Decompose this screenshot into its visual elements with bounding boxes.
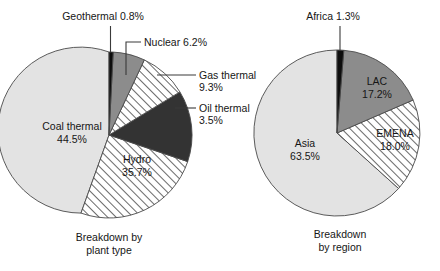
label-emena-line2: 18.0% <box>380 140 410 152</box>
label-emena-line1: EMENA <box>376 127 413 139</box>
label-africa: Africa 1.3% <box>306 10 360 22</box>
label-lac-line2: 17.2% <box>362 88 392 100</box>
label-gas-thermal-line1: Gas thermal <box>199 69 256 81</box>
label-oil-thermal-line1: Oil thermal <box>199 102 250 114</box>
label-nuclear: Nuclear 6.2% <box>144 36 207 48</box>
caption-plant-type-line1: Breakdown by <box>76 231 143 243</box>
label-geothermal: Geothermal 0.8% <box>62 10 144 22</box>
figure-svg: Geothermal 0.8% Nuclear 6.2% Gas thermal… <box>0 0 440 271</box>
pie-chart-figure: Geothermal 0.8% Nuclear 6.2% Gas thermal… <box>0 0 440 271</box>
label-coal-thermal-line2: 44.5% <box>57 133 87 145</box>
label-lac-line1: LAC <box>367 75 388 87</box>
label-gas-thermal-line2: 9.3% <box>199 81 223 93</box>
caption-region-line1: Breakdown <box>314 228 367 240</box>
label-hydro-line1: Hydro <box>123 153 151 165</box>
label-coal-thermal-line1: Coal thermal <box>42 120 102 132</box>
caption-plant-type-line2: plant type <box>86 244 132 256</box>
label-oil-thermal-line2: 3.5% <box>199 114 223 126</box>
caption-region-line2: by region <box>318 241 361 253</box>
label-asia-line1: Asia <box>295 137 316 149</box>
label-asia-line2: 63.5% <box>290 150 320 162</box>
label-hydro-line2: 35.7% <box>122 166 152 178</box>
